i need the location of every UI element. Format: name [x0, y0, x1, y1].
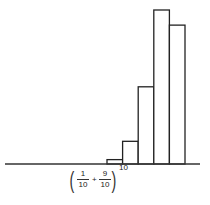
fraction-numerator: 9 [99, 169, 111, 180]
fraction-denominator: 10 [77, 180, 89, 190]
fraction-denominator: 10 [99, 180, 111, 190]
histogram-bar-k8 [138, 87, 154, 164]
open-paren: ( [70, 166, 75, 194]
histogram-bar-k10 [169, 25, 185, 164]
fraction-one-tenth: 1 10 [77, 169, 89, 190]
plus-sign: + [92, 175, 97, 185]
histogram-bar-k9 [154, 10, 170, 164]
distribution-label: ( 1 10 + 9 10 ) 10 [66, 166, 136, 196]
histogram-bars [107, 10, 185, 164]
histogram-bar-k7 [123, 141, 139, 164]
fraction-numerator: 1 [77, 169, 89, 180]
close-paren: ) [112, 166, 117, 194]
fraction-nine-tenths: 9 10 [99, 169, 111, 190]
exponent: 10 [119, 163, 128, 173]
